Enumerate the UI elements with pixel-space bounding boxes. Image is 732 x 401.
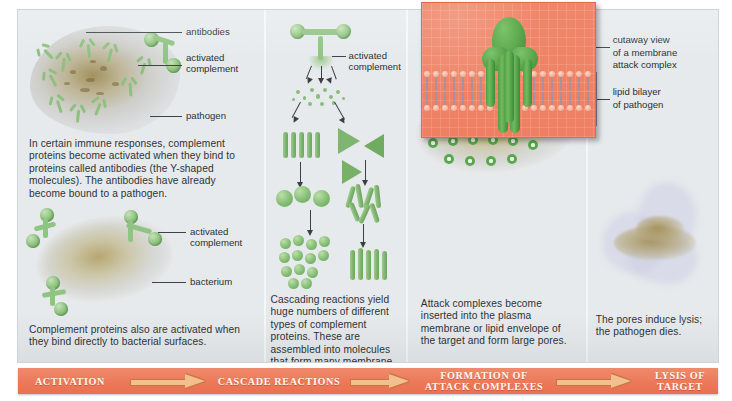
banner-label-cascade-reactions: CASCADE REACTIONS <box>208 376 350 387</box>
label-activated-complement: activated complement <box>186 52 238 75</box>
label-activated-complement-2: activated complement <box>190 226 242 249</box>
panel-lysis: cutaway view of a membrane attack comple… <box>586 10 718 362</box>
label-line-1: activated <box>349 50 387 61</box>
panel-cascade: activated complement <box>264 10 406 362</box>
complement-dumbbell <box>26 208 66 252</box>
leader-activated-complement-2 <box>158 232 186 233</box>
label-line-2: complement <box>186 63 238 74</box>
banner-step-activation: ACTIVATION <box>10 375 208 387</box>
label-activated-complement: activated complement <box>349 50 401 73</box>
arrow-right-icon <box>350 375 412 387</box>
stage-banner: ACTIVATION CASCADE REACTIONS FORMATION O… <box>18 368 718 394</box>
caption-cascade: Cascading reactions yield huge numbers o… <box>271 294 405 362</box>
panel-strip: antibodies activated complement pathogen… <box>18 10 718 362</box>
banner-label-formation-of-attack-complexes: FORMATION OF ATTACK COMPLEXES <box>412 370 556 392</box>
label-line-1: activated <box>186 52 224 63</box>
panel-activation: antibodies activated complement pathogen… <box>18 10 264 362</box>
label-bacterium: bacterium <box>190 276 232 287</box>
label-cutaway-view: cutaway view of a membrane attack comple… <box>613 34 678 72</box>
label-pathogen: pathogen <box>186 110 226 121</box>
label-line-1: activated <box>190 226 228 237</box>
membrane-attack-complex-inset <box>421 2 596 138</box>
complement-dumbbell <box>120 210 166 256</box>
banner-label-line-1: FORMATION OF <box>440 370 528 381</box>
banner-step-formation-of-attack-complexes: FORMATION OF ATTACK COMPLEXES <box>412 370 634 392</box>
label-line-1: cutaway view <box>613 34 670 45</box>
leader-activated-complement <box>138 65 182 66</box>
banner-step-lysis-of-target: LYSIS OF TARGET <box>634 370 726 392</box>
complement-dumbbell <box>36 276 82 322</box>
leader-lipid-bilayer <box>596 99 610 100</box>
lysed-pathogen <box>598 182 710 292</box>
label-line-2: complement <box>190 237 242 248</box>
label-lipid-bilayer: lipid bilayer of pathogen <box>613 86 664 111</box>
leader-bacterium <box>152 282 186 283</box>
caption-attack-complex: Attack complexes become inserted into th… <box>421 298 571 348</box>
label-line-3: attack complex <box>613 59 677 70</box>
banner-label-line-2: ATTACK COMPLEXES <box>425 381 544 392</box>
leader-activated-complement <box>332 56 346 57</box>
complement-dumbbell <box>144 32 186 78</box>
label-line-2: complement <box>349 61 401 72</box>
banner-step-cascade-reactions: CASCADE REACTIONS <box>208 375 412 387</box>
caption-activation-bottom: Complement proteins also are activated w… <box>29 324 244 349</box>
caption-activation-top: In certain immune responses, complement … <box>29 138 254 200</box>
label-line-1: lipid bilayer <box>613 86 661 97</box>
figure-root: antibodies activated complement pathogen… <box>0 0 732 401</box>
leader-cutaway-view <box>594 47 610 48</box>
banner-label-line-1: LYSIS OF <box>655 370 705 381</box>
banner-label-line-2: TARGET <box>657 381 703 392</box>
label-antibodies: antibodies <box>186 26 230 37</box>
banner-label-lysis-of-target: LYSIS OF TARGET <box>634 370 726 392</box>
caption-lysis: The pores induce lysis; the pathogen die… <box>596 314 718 339</box>
leader-pathogen <box>150 116 182 117</box>
leader-antibodies <box>86 32 182 33</box>
label-line-2: of pathogen <box>613 99 664 110</box>
banner-label-activation: ACTIVATION <box>10 376 130 387</box>
arrow-right-icon <box>556 375 634 387</box>
label-line-2: of a membrane <box>613 47 678 58</box>
arrow-right-icon <box>130 375 208 387</box>
